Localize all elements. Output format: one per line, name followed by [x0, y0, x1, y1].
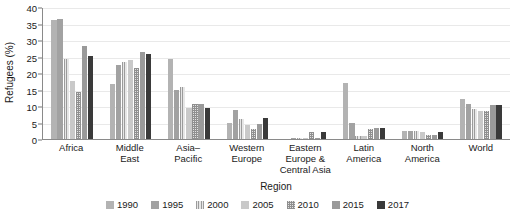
x-axis-tick-label-line: Middle [101, 142, 160, 153]
y-axis-tick-label: 0 [32, 135, 37, 146]
legend-item: 2017 [377, 199, 409, 210]
legend-item: 2000 [196, 199, 228, 210]
bar [309, 132, 314, 139]
x-axis-tick-label-line: Pacific [159, 153, 218, 164]
bar [57, 19, 62, 139]
legend-item: 2015 [332, 199, 364, 210]
bar [496, 105, 501, 139]
bar-group [393, 8, 451, 139]
bar [257, 124, 262, 139]
bar-group [218, 8, 276, 139]
y-axis-tick-label: 5 [32, 118, 37, 129]
x-axis-tick-labels: AfricaMiddleEastAsia–PacificWesternEurop… [42, 142, 510, 175]
x-axis-tick-label-line: America [393, 153, 452, 164]
bar [414, 131, 419, 139]
bar [245, 125, 250, 139]
bar-group [335, 8, 393, 139]
bar-group [277, 8, 335, 139]
bar-groups [43, 8, 510, 139]
y-axis-tick-label: 20 [26, 69, 37, 80]
legend-item: 1995 [151, 199, 183, 210]
bar [361, 136, 366, 139]
x-axis-tick-label-line: Eastern [276, 142, 335, 153]
legend-label: 2010 [298, 199, 319, 210]
bar [321, 132, 326, 139]
x-axis-tick-label: EasternEurope &Central Asia [276, 142, 335, 175]
bar [490, 105, 495, 139]
bar [349, 123, 354, 139]
y-axis-tick-label: 10 [26, 102, 37, 113]
bar [70, 81, 75, 139]
y-axis-tick-label: 30 [26, 36, 37, 47]
bar [110, 84, 115, 139]
bar [168, 59, 173, 139]
bar [374, 128, 379, 139]
bar-group [452, 8, 510, 139]
bar [180, 87, 185, 139]
legend-swatch-icon [287, 201, 295, 209]
x-axis-tick-label: LatinAmerica [335, 142, 394, 175]
bar [251, 129, 256, 139]
bar [198, 104, 203, 139]
bar-group [160, 8, 218, 139]
x-axis-tick-label: Africa [42, 142, 101, 175]
bar [478, 111, 483, 139]
bar [460, 99, 465, 139]
plot-area [42, 8, 510, 140]
x-axis-tick-label: Asia–Pacific [159, 142, 218, 175]
bar [64, 59, 69, 139]
x-axis-tick-label-line: Latin [335, 142, 394, 153]
bar [380, 128, 385, 139]
x-axis-tick-label-line: Europe [218, 153, 277, 164]
bar [355, 136, 360, 139]
bar [134, 68, 139, 139]
legend-label: 2015 [343, 199, 364, 210]
legend-swatch-icon [196, 201, 204, 209]
x-axis-tick-label-line: America [335, 153, 394, 164]
bar-group [43, 8, 101, 139]
bar [76, 92, 81, 139]
bar [51, 20, 56, 139]
bar [303, 138, 308, 139]
bar [315, 138, 320, 139]
bar [291, 138, 296, 139]
bar [186, 108, 191, 139]
bar [88, 56, 93, 139]
legend-label: 1990 [117, 199, 138, 210]
x-axis-tick-label-line: East [101, 153, 160, 164]
legend-label: 2005 [252, 199, 273, 210]
y-axis-tick-label: 15 [26, 85, 37, 96]
bar [174, 90, 179, 139]
x-axis-tick-label-line: Central Asia [276, 164, 335, 175]
legend-swatch-icon [377, 201, 385, 209]
refugees-by-region-bar-chart: Refugees (%) 0510152025303540 AfricaMidd… [0, 0, 515, 223]
x-axis-tick-label: WesternEurope [218, 142, 277, 175]
x-axis-tick-label-line: Africa [42, 142, 101, 153]
bar [484, 111, 489, 139]
legend-swatch-icon [151, 201, 159, 209]
bar [472, 109, 477, 139]
x-axis-tick-label: NorthAmerica [393, 142, 452, 175]
legend-item: 2010 [287, 199, 319, 210]
legend-label: 2017 [388, 199, 409, 210]
bar [408, 131, 413, 139]
bar [146, 54, 151, 139]
bar [368, 129, 373, 139]
bar [239, 119, 244, 139]
x-axis-tick-label-line: Asia– [159, 142, 218, 153]
bar [426, 135, 431, 139]
bar [297, 138, 302, 139]
legend-swatch-icon [106, 201, 114, 209]
y-axis-tick-label: 25 [26, 52, 37, 63]
bar [205, 108, 210, 139]
bar [432, 135, 437, 139]
bar [420, 132, 425, 139]
legend-item: 1990 [106, 199, 138, 210]
x-axis-tick-label-line: World [452, 142, 511, 153]
x-axis-tick-label-line: Europe & [276, 153, 335, 164]
plot-wrapper: 0510152025303540 [20, 8, 510, 140]
y-axis-title-text: Refugees (%) [5, 42, 16, 103]
bar [438, 132, 443, 139]
bar [82, 46, 87, 139]
bar [116, 65, 121, 139]
